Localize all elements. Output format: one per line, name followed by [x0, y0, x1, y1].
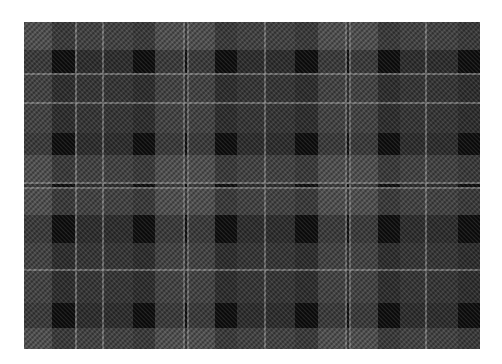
- thread-sheen-layer: [24, 22, 480, 349]
- image-canvas: [0, 0, 502, 364]
- plaid-fabric-swatch: [24, 22, 480, 349]
